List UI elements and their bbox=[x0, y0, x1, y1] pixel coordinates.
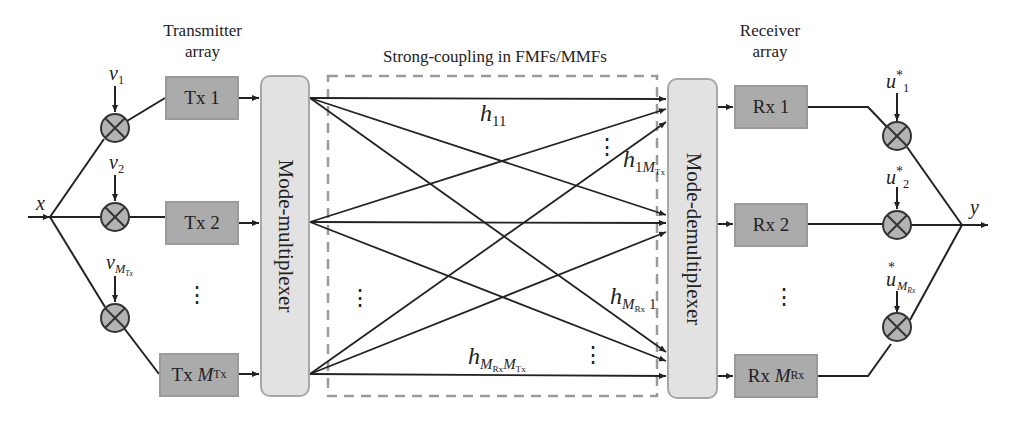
rx-ellipsis: ⋮ bbox=[773, 284, 795, 310]
tx-multiplier-2 bbox=[101, 203, 129, 231]
weight-sub: 1 bbox=[118, 73, 124, 87]
channel-ellipsis-left: ⋮ bbox=[349, 285, 371, 311]
box-index: M bbox=[775, 365, 791, 387]
h-subsub: Tx bbox=[655, 167, 665, 177]
weight-base: u bbox=[886, 166, 896, 188]
h-sub-m2: M bbox=[503, 356, 515, 372]
rx-multiplier-2 bbox=[883, 211, 911, 239]
h-sub-m1: M bbox=[480, 356, 492, 372]
rx-box-m: Rx MRx bbox=[734, 354, 818, 398]
title-line: array bbox=[720, 41, 820, 62]
box-prefix: Rx bbox=[753, 96, 780, 118]
box-prefix: Tx bbox=[184, 87, 210, 109]
input-label: x bbox=[36, 192, 45, 215]
output-label: y bbox=[970, 196, 979, 219]
weight-sup: * bbox=[888, 260, 895, 275]
mode-multiplexer: Mode-multiplexer bbox=[260, 75, 310, 397]
mode-demultiplexer: Mode-demultiplexer bbox=[667, 78, 718, 399]
tx-weight-1: v1 bbox=[109, 62, 124, 88]
box-index: 1 bbox=[210, 87, 220, 109]
weight-base: v bbox=[109, 62, 118, 84]
h-sub-tail: 1 bbox=[645, 296, 656, 312]
title-line: Transmitter bbox=[150, 20, 255, 41]
tx-box-m: Tx MTx bbox=[159, 353, 239, 397]
h-sub-m: M bbox=[642, 159, 654, 175]
channel-label-hm1: hMRx 1 bbox=[610, 283, 656, 314]
channel-ellipsis-top: ⋮ bbox=[596, 134, 618, 160]
weight-subsub: Rx bbox=[907, 286, 915, 295]
tx-multiplier-m bbox=[101, 304, 129, 332]
weight-sub: M bbox=[115, 262, 125, 276]
rx-multiplier-1 bbox=[883, 122, 911, 150]
tx-box-1: Tx 1 bbox=[165, 76, 239, 120]
rx-weight-m: u*MRx bbox=[886, 266, 915, 295]
tx-weight-2: v2 bbox=[109, 151, 124, 177]
box-index: 2 bbox=[780, 214, 790, 236]
box-prefix: Tx bbox=[184, 212, 210, 234]
rx-multiplier-m bbox=[883, 313, 911, 341]
weight-sub: 2 bbox=[903, 177, 909, 191]
h-sub-m: M bbox=[622, 296, 634, 312]
coupling-title: Strong-coupling in FMFs/MMFs bbox=[350, 46, 640, 67]
mux-label: Mode-multiplexer bbox=[273, 160, 298, 313]
channel-ellipsis-bottom: ⋮ bbox=[582, 342, 604, 368]
weight-base: v bbox=[106, 251, 115, 273]
box-prefix: Rx bbox=[753, 214, 780, 236]
box-sub: Rx bbox=[791, 369, 805, 383]
box-index: 1 bbox=[780, 96, 790, 118]
h-sub: 11 bbox=[492, 113, 506, 129]
title-line: Receiver bbox=[720, 20, 820, 41]
box-index: M bbox=[197, 364, 213, 386]
rx-box-2: Rx 2 bbox=[734, 203, 808, 247]
weight-sub: M bbox=[897, 279, 907, 293]
weight-sup: * bbox=[896, 164, 903, 179]
tx-weight-m: vMTx bbox=[106, 251, 133, 278]
channel-label-hmm: hMRxMTx bbox=[468, 343, 526, 374]
receiver-array-title: Receiver array bbox=[720, 20, 820, 62]
rx-box-1: Rx 1 bbox=[734, 85, 808, 129]
tx-box-2: Tx 2 bbox=[165, 201, 239, 245]
weight-sub: 1 bbox=[903, 81, 909, 95]
h-base: h bbox=[468, 343, 480, 369]
h-base: h bbox=[623, 146, 635, 172]
channel-label-h11: h11 bbox=[480, 100, 506, 130]
h-base: h bbox=[480, 100, 492, 126]
tx-multiplier-1 bbox=[101, 114, 129, 142]
h-subsub1: Rx bbox=[492, 364, 503, 374]
title-line: array bbox=[150, 41, 255, 62]
weight-base: u bbox=[886, 70, 896, 92]
transmitter-array-title: Transmitter array bbox=[150, 20, 255, 62]
mimo-mode-division-diagram: Transmitter array Strong-coupling in FMF… bbox=[0, 0, 1020, 423]
demux-label: Mode-demultiplexer bbox=[680, 152, 705, 325]
box-prefix: Tx bbox=[172, 364, 198, 386]
h-base: h bbox=[610, 283, 622, 309]
h-subsub: Rx bbox=[634, 304, 645, 314]
channel-label-h1m: h1MTx bbox=[623, 146, 665, 177]
box-prefix: Rx bbox=[748, 365, 775, 387]
weight-sup: * bbox=[896, 68, 903, 83]
rx-weight-1: u*1 bbox=[886, 68, 909, 96]
weight-sub: 2 bbox=[118, 162, 124, 176]
h-subsub2: Tx bbox=[516, 364, 526, 374]
tx-ellipsis: ⋮ bbox=[186, 282, 208, 308]
weight-base: v bbox=[109, 151, 118, 173]
box-sub: Tx bbox=[213, 368, 226, 382]
rx-weight-2: u*2 bbox=[886, 164, 909, 192]
weight-subsub: Tx bbox=[125, 269, 133, 278]
box-index: 2 bbox=[210, 212, 220, 234]
